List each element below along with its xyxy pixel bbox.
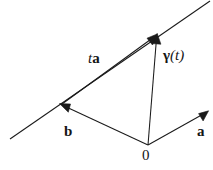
label-gamma-argument: (t) bbox=[170, 47, 184, 63]
vector-gamma bbox=[148, 33, 161, 145]
vector-b bbox=[60, 104, 149, 145]
vector-gamma-shaft bbox=[148, 36, 157, 145]
label-ta-vector: a bbox=[92, 50, 100, 66]
vector-b-shaft bbox=[62, 105, 148, 145]
label-origin: 0 bbox=[142, 148, 150, 163]
vector-ta bbox=[62, 34, 157, 104]
label-b: b bbox=[64, 124, 72, 139]
label-ta: ta bbox=[88, 51, 100, 66]
vector-b-arrowhead bbox=[60, 104, 71, 113]
label-gamma-of-t: γ(t) bbox=[163, 48, 184, 63]
label-gamma-symbol: γ bbox=[163, 47, 170, 63]
vector-a-arrowhead bbox=[199, 111, 209, 121]
vector-diagram-figure: ta γ(t) b a 0 bbox=[0, 0, 213, 170]
vector-ta-shaft bbox=[62, 37, 154, 104]
label-a: a bbox=[197, 124, 205, 139]
affine-line bbox=[10, 1, 210, 139]
diagram-canvas bbox=[0, 0, 213, 170]
